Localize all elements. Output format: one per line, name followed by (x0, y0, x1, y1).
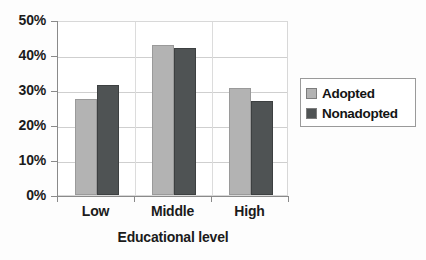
x-axis-tick (57, 196, 58, 202)
y-axis-tick (51, 126, 57, 127)
y-axis-tick-label: 0% (0, 187, 46, 203)
y-axis-tick-label: 50% (0, 12, 46, 28)
legend-item-adopted: Adopted (306, 83, 410, 103)
y-axis-tick-label: 30% (0, 82, 46, 98)
nonadopted-swatch (306, 108, 317, 119)
x-axis-tick (211, 196, 212, 202)
y-axis-tick (51, 21, 57, 22)
category-divider (212, 22, 213, 195)
legend-item-nonadopted: Nonadopted (306, 103, 410, 123)
y-axis-tick-label: 10% (0, 152, 46, 168)
bar-low-adopted (75, 99, 97, 195)
category-divider (135, 22, 136, 195)
y-axis-tick-label: 40% (0, 47, 46, 63)
bar-chart: 0%10%20%30%40%50% LowMiddleHigh Educatio… (0, 0, 426, 260)
bar-high-nonadopted (251, 101, 273, 196)
bar-high-adopted (229, 88, 251, 195)
x-axis-tick-label: High (200, 203, 300, 219)
bar-middle-nonadopted (174, 48, 196, 195)
bar-middle-adopted (152, 45, 174, 196)
x-axis-spine (57, 196, 289, 197)
adopted-swatch (306, 88, 317, 99)
x-axis-tick (288, 196, 289, 202)
x-axis-tick (134, 196, 135, 202)
y-axis-tick (51, 161, 57, 162)
y-axis-tick (51, 56, 57, 57)
bar-low-nonadopted (97, 85, 119, 195)
legend-label: Adopted (322, 86, 375, 101)
y-axis-tick (51, 91, 57, 92)
plot-area (57, 21, 288, 196)
chart-legend: AdoptedNonadopted (300, 78, 416, 127)
legend-label: Nonadopted (322, 106, 398, 121)
y-axis-spine (57, 21, 58, 197)
x-axis-title: Educational level (57, 229, 289, 245)
y-axis-tick-label: 20% (0, 117, 46, 133)
